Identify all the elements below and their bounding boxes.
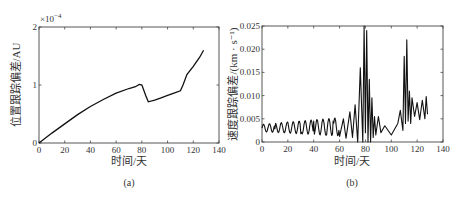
- y-tick-label: 0: [256, 137, 261, 147]
- x-tick-label: 40: [309, 144, 319, 154]
- x-tick-label: 100: [385, 144, 399, 154]
- position-error-line: [39, 50, 204, 143]
- panel-b: 020406080100120140 00.0050.0100.0150.020…: [226, 21, 450, 189]
- y-tick-label: 0.025: [240, 21, 261, 31]
- y-tick-label: 0: [33, 138, 38, 148]
- y-tick-label: 2: [33, 22, 38, 32]
- velocity-error-line: [262, 26, 428, 142]
- x-tick-label: 0: [37, 145, 42, 155]
- y-tick-label: 1: [33, 80, 38, 90]
- x-tick-label: 100: [161, 145, 175, 155]
- y-axis-label-b: 速度跟踪偏差/(km · s⁻¹): [226, 27, 240, 140]
- x-ticks-b: 020406080100120140: [260, 26, 451, 154]
- y-tick-label: 0.010: [240, 91, 261, 101]
- x-axis-label-b: 时间/天: [334, 155, 370, 167]
- y-ticks-a: 012: [33, 22, 220, 148]
- x-tick-label: 80: [361, 144, 371, 154]
- panel-a: 020406080100120140 012 ×10−4 时间/天 位置跟踪偏差…: [9, 12, 226, 189]
- x-tick-label: 20: [283, 144, 293, 154]
- x-tick-label: 40: [86, 145, 96, 155]
- x-tick-label: 60: [112, 145, 122, 155]
- exponent-label: ×10−4: [40, 12, 62, 24]
- caption-b: (b): [346, 177, 358, 189]
- y-axis-label-a: 位置跟踪偏差/AU: [9, 42, 22, 127]
- x-tick-label: 60: [335, 144, 345, 154]
- x-tick-label: 0: [260, 144, 265, 154]
- y-tick-label: 0.020: [240, 44, 261, 54]
- x-tick-label: 120: [187, 145, 201, 155]
- x-tick-label: 140: [212, 145, 226, 155]
- x-tick-label: 140: [436, 144, 450, 154]
- caption-a: (a): [123, 177, 134, 189]
- x-tick-label: 120: [410, 144, 424, 154]
- axes-frame-a: [39, 27, 219, 143]
- axes-frame-b: [262, 26, 443, 142]
- y-tick-label: 0.015: [240, 67, 261, 77]
- y-tick-label: 0.005: [240, 114, 261, 124]
- x-axis-label-a: 时间/天: [111, 155, 147, 167]
- x-ticks-a: 020406080100120140: [37, 27, 227, 155]
- figure: 020406080100120140 012 ×10−4 时间/天 位置跟踪偏差…: [0, 0, 465, 201]
- x-tick-label: 20: [60, 145, 70, 155]
- x-tick-label: 80: [137, 145, 147, 155]
